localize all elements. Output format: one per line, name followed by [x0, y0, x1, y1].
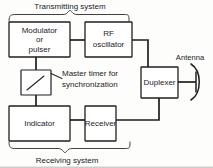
block-modulator-label-line1: Modulator: [22, 26, 58, 35]
radar-block-diagram: Modulator or pulser RF oscillator Duplex…: [0, 0, 213, 168]
block-indicator-label: Indicator: [24, 119, 55, 128]
block-rf-oscillator[interactable]: RF oscillator: [85, 22, 132, 57]
block-receiver-label: Receiver: [85, 119, 117, 128]
receiving-system-brace: Receiving system: [9, 142, 130, 165]
block-receiver[interactable]: Receiver: [85, 106, 117, 141]
block-modulator-label-line2: or: [36, 35, 43, 44]
receiving-brace-path: [9, 142, 130, 153]
transmitting-system-brace: Transmitting system: [9, 2, 129, 21]
wire-duplexer-to-receiver: [116, 98, 159, 120]
antenna-label: Antenna: [176, 53, 205, 62]
master-timer-leader-line: [51, 74, 62, 79]
transmitting-system-label: Transmitting system: [34, 2, 106, 11]
block-rf-oscillator-label-line2: oscillator: [93, 40, 125, 49]
master-timer-annotation-line1: Master timer for: [62, 69, 118, 78]
transmitting-brace-path: [9, 11, 129, 22]
block-duplexer[interactable]: Duplexer: [141, 67, 178, 98]
block-rf-oscillator-label-line1: RF: [103, 29, 114, 38]
master-timer-annotation-line2: synchronization: [62, 80, 118, 89]
block-duplexer-label: Duplexer: [143, 78, 175, 87]
master-timer-annotation: Master timer for synchronization: [62, 69, 118, 89]
master-timer-symbol[interactable]: [21, 70, 62, 95]
diagram-canvas: Modulator or pulser RF oscillator Duplex…: [0, 0, 213, 168]
block-indicator[interactable]: Indicator: [9, 106, 70, 141]
receiving-system-label: Receiving system: [36, 156, 99, 165]
block-modulator-label-line3: pulser: [29, 45, 51, 54]
block-modulator[interactable]: Modulator or pulser: [9, 22, 70, 57]
